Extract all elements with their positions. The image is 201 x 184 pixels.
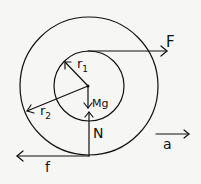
center-dot [87, 85, 90, 88]
label-r1: r1 [77, 57, 88, 74]
weight-Mg-arrow [84, 86, 92, 108]
label-r2-sub: 2 [45, 111, 51, 121]
force-F-arrow [88, 46, 167, 56]
normal-N-arrow [85, 112, 93, 156]
label-N: N [93, 126, 103, 140]
label-F: F [166, 35, 175, 50]
acceleration-a-arrow [156, 130, 189, 138]
label-a: a [163, 137, 172, 151]
label-r1-sub: 1 [82, 64, 88, 74]
friction-f-arrow [17, 151, 89, 161]
r2-arrow [27, 86, 88, 113]
spool-diagram: F r1 r2 Mg N f a [0, 0, 201, 184]
label-r2: r2 [40, 104, 51, 121]
diagram-canvas [0, 0, 201, 184]
label-Mg: Mg [92, 98, 108, 109]
label-f: f [45, 160, 50, 174]
